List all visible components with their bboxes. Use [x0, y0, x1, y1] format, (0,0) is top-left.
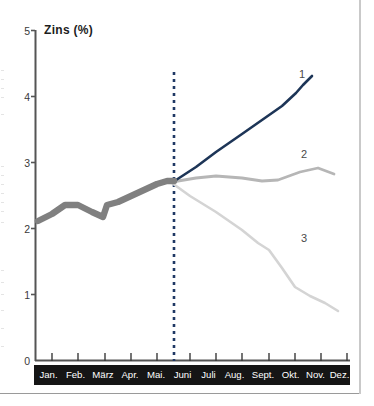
plot-area [0, 0, 374, 406]
x-tick-label-apr: Apr. [117, 369, 143, 380]
x-tick-label-juli: Juli [196, 369, 221, 380]
x-tick-label-jan: Jan. [35, 369, 62, 380]
x-tick-label-dez: Dez. [327, 369, 352, 380]
x-tick-label-nov: Nov. [303, 369, 328, 380]
series-3-label: 3 [301, 232, 307, 244]
x-tick-label-mai: Mai. [143, 369, 169, 380]
chart-figure: 5 4 3 2 1 0 Zins (%) [0, 0, 374, 406]
x-tick-label-maerz: März [89, 369, 117, 380]
x-tick-label-aug: Aug. [221, 369, 248, 380]
actual-history-line [38, 181, 174, 221]
x-axis-month-bar: Jan. Feb. März Apr. Mai. Juni Juli Aug. … [34, 365, 350, 385]
x-tick-label-juni: Juni [169, 369, 196, 380]
series-2-label: 2 [301, 148, 307, 160]
series-2-line [172, 168, 334, 182]
x-tick-label-okt: Okt. [278, 369, 303, 380]
x-tick-label-sept: Sept. [248, 369, 278, 380]
y-tick-marks [31, 31, 35, 295]
series-1-label: 1 [299, 68, 305, 80]
x-tick-label-feb: Feb. [62, 369, 89, 380]
series-1-line [173, 76, 312, 182]
series-3-line [172, 183, 338, 311]
